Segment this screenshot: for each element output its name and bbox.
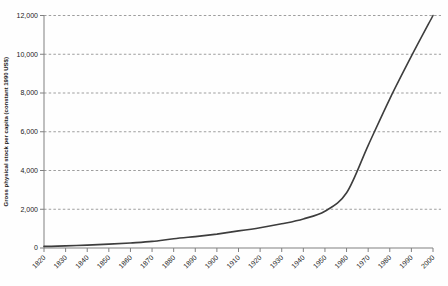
y-axis-title: Gross physical stock per capita (constan… [3, 57, 9, 206]
line-chart: 02,0004,0006,0008,00010,00012,0001820183… [0, 0, 448, 286]
y-tick-label: 8,000 [20, 89, 38, 96]
x-tick-label: 1840 [74, 254, 90, 270]
x-tick-label: 1870 [139, 254, 155, 270]
x-tick-label: 1920 [247, 254, 263, 270]
x-tick-label: 1850 [96, 254, 112, 270]
x-tick-label: 1990 [398, 254, 414, 270]
x-tick-label: 1960 [333, 254, 349, 270]
x-tick-label: 1830 [52, 254, 68, 270]
figure: 02,0004,0006,0008,00010,00012,0001820183… [0, 0, 448, 286]
x-tick-label: 1890 [182, 254, 198, 270]
x-tick-label: 1930 [268, 254, 284, 270]
y-tick-label: 2,000 [20, 206, 38, 213]
y-tick-label: 12,000 [17, 12, 39, 19]
x-tick-label: 1820 [31, 254, 47, 270]
x-tick-label: 2000 [420, 254, 436, 270]
x-tick-label: 1940 [290, 254, 306, 270]
y-tick-label: 0 [34, 244, 38, 251]
x-tick-label: 1950 [312, 254, 328, 270]
y-tick-label: 6,000 [20, 128, 38, 135]
x-tick-label: 1880 [160, 254, 176, 270]
x-tick-label: 1900 [204, 254, 220, 270]
x-tick-label: 1910 [225, 254, 241, 270]
y-tick-label: 4,000 [20, 167, 38, 174]
x-tick-label: 1970 [355, 254, 371, 270]
x-tick-label: 1860 [117, 254, 133, 270]
y-tick-label: 10,000 [17, 51, 39, 58]
x-tick-label: 1980 [377, 254, 393, 270]
data-series-line [44, 16, 433, 247]
